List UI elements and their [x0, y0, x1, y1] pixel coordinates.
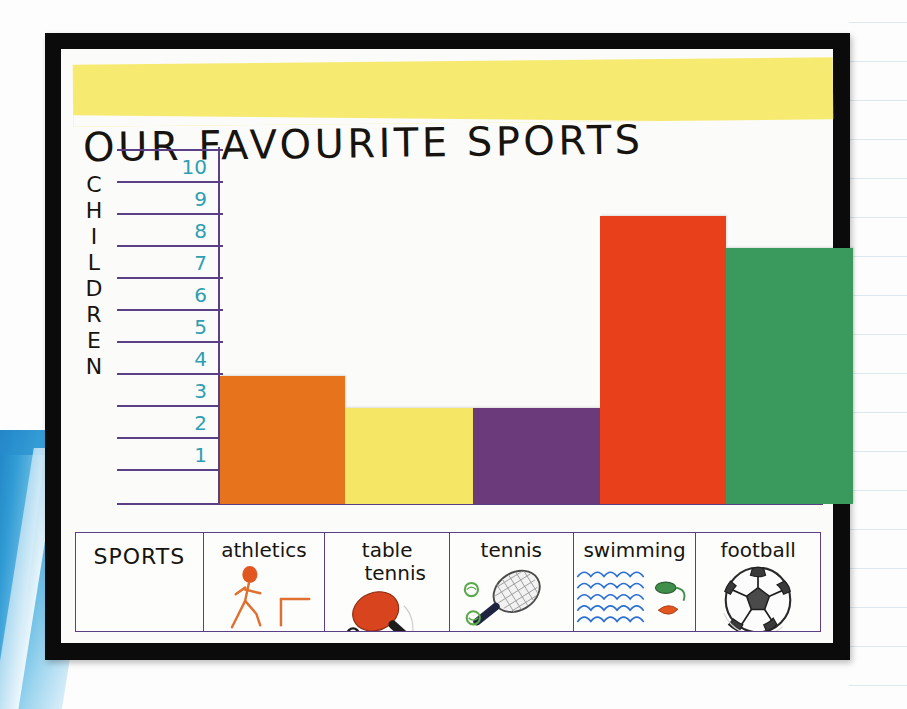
gridline-row: 3	[117, 373, 223, 405]
category-label-line: tennis	[481, 539, 542, 562]
bar-series	[220, 149, 823, 504]
y-axis-label-letter: C	[86, 172, 101, 198]
ruled-line	[849, 607, 907, 608]
category-label-line: tennis	[364, 562, 425, 585]
y-tick-label: 4	[194, 346, 207, 372]
category-label: football	[720, 539, 795, 562]
gridline-row: 1	[117, 437, 223, 469]
y-axis-scale: 10987654321	[117, 149, 223, 504]
gridline-row	[117, 469, 223, 501]
ruled-line	[849, 490, 907, 491]
y-tick-label: 2	[194, 410, 207, 436]
gridline-row: 7	[117, 245, 223, 277]
gridline-row: 10	[117, 149, 223, 181]
ruled-line	[849, 334, 907, 335]
bar-tennis	[473, 408, 600, 504]
gridline-row: 9	[117, 181, 223, 213]
poster-sheet: OUR FAVOURITE SPORTS CHILDREN 1098765432…	[61, 49, 833, 643]
category-label: athletics	[221, 539, 306, 562]
y-tick-label: 5	[194, 314, 207, 340]
y-tick-label: 1	[194, 442, 207, 468]
y-tick-label: 8	[194, 218, 207, 244]
category-cell-table-tennis: tabletennis	[325, 533, 450, 631]
ruled-line	[849, 529, 907, 530]
bar-table-tennis	[345, 408, 473, 504]
y-axis-label-letter: D	[86, 276, 103, 302]
category-row: SPORTSathletics tabletennis	[75, 532, 821, 632]
slide-canvas: OUR FAVOURITE SPORTS CHILDREN 1098765432…	[0, 0, 907, 709]
gridline-row: 5	[117, 309, 223, 341]
gridline-row: 8	[117, 213, 223, 245]
category-cell-tennis: tennis	[450, 533, 574, 631]
y-axis-label-letter: I	[91, 224, 98, 250]
y-axis-label-letter: L	[88, 250, 100, 276]
table-tennis-paddle-icon	[325, 585, 449, 631]
category-label: tabletennis	[348, 539, 425, 585]
y-axis-label-children: CHILDREN	[77, 172, 111, 380]
category-label: tennis	[481, 539, 542, 562]
y-axis-label-letter: R	[86, 302, 101, 328]
y-axis-label-letter: E	[87, 328, 101, 354]
swimming-waves-icon	[574, 562, 696, 631]
ruled-line	[849, 568, 907, 569]
gridline-row: 6	[117, 277, 223, 309]
category-header-cell: SPORTS	[76, 533, 204, 631]
y-tick-label: 3	[194, 378, 207, 404]
ruled-line	[849, 412, 907, 413]
ruled-line	[849, 178, 907, 179]
category-cell-athletics: athletics	[204, 533, 326, 631]
ruled-line	[849, 373, 907, 374]
category-header-label: SPORTS	[93, 539, 185, 568]
chart-plot-area: CHILDREN 10987654321	[75, 144, 821, 529]
category-label-line: athletics	[221, 539, 306, 562]
running-stick-figure-icon	[204, 562, 325, 631]
tennis-racket-icon	[450, 562, 573, 631]
category-label-line: football	[720, 539, 795, 562]
category-cell-swimming: swimming	[574, 533, 697, 631]
ruled-line	[849, 451, 907, 452]
category-label-line: table	[348, 539, 425, 562]
ruled-line	[849, 61, 907, 62]
category-label: swimming	[583, 539, 685, 562]
ruled-line	[849, 22, 907, 23]
gridline-row: 4	[117, 341, 223, 373]
ruled-line	[849, 685, 907, 686]
gridline-row: 2	[117, 405, 223, 437]
y-tick-label: 9	[194, 186, 207, 212]
ruled-line	[849, 646, 907, 647]
football-ball-icon	[696, 562, 820, 631]
category-cell-football: football	[696, 533, 820, 631]
ruled-paper-lines	[845, 0, 907, 709]
ruled-line	[849, 295, 907, 296]
bar-athletics	[220, 376, 345, 504]
y-axis-label-letter: N	[86, 354, 102, 380]
y-tick-label: 10	[182, 154, 207, 180]
ruled-line	[849, 256, 907, 257]
bar-football	[726, 248, 853, 504]
bar-swimming	[600, 216, 726, 504]
y-tick-label: 6	[194, 282, 207, 308]
ruled-line	[849, 139, 907, 140]
y-tick-label: 7	[194, 250, 207, 276]
ruled-line	[849, 100, 907, 101]
poster-photo-frame: OUR FAVOURITE SPORTS CHILDREN 1098765432…	[45, 33, 850, 660]
category-label-line: swimming	[583, 539, 685, 562]
ruled-line	[849, 217, 907, 218]
y-axis-label-letter: H	[86, 198, 103, 224]
